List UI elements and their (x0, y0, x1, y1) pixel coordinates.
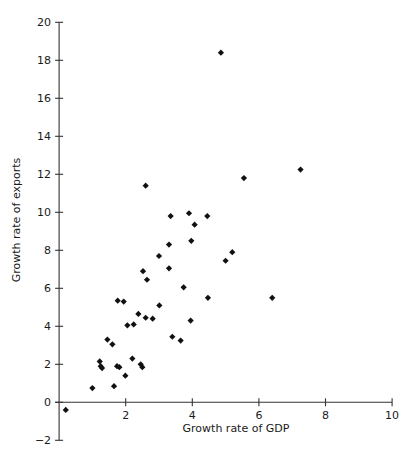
data-point (166, 265, 172, 271)
y-tick-label: 0 (44, 396, 51, 409)
data-point (109, 341, 115, 347)
data-point (192, 222, 198, 228)
y-tick-label: 14 (37, 130, 51, 143)
x-tick-label: 6 (255, 409, 262, 422)
data-point (178, 337, 184, 343)
data-point (150, 316, 156, 322)
data-point (97, 358, 103, 364)
data-point (143, 183, 149, 189)
data-point (205, 295, 211, 301)
data-point (218, 50, 224, 56)
scatter-plot-figure: −202468101214161820246810 Growth rate of… (0, 0, 413, 460)
x-tick-label: 10 (385, 409, 399, 422)
data-point (297, 166, 303, 172)
y-tick-label: 18 (37, 54, 51, 67)
data-point (156, 302, 162, 308)
data-point (122, 373, 128, 379)
data-point (269, 295, 275, 301)
y-tick-label: 16 (37, 92, 51, 105)
data-point (188, 318, 194, 324)
data-point (129, 356, 135, 362)
data-point (181, 284, 187, 290)
data-point (229, 249, 235, 255)
tick-labels-group: −202468101214161820246810 (35, 16, 399, 447)
data-point (169, 334, 175, 340)
data-point (104, 337, 110, 343)
data-point (144, 277, 150, 283)
data-point (140, 268, 146, 274)
data-point (89, 385, 95, 391)
data-point (121, 299, 127, 305)
x-tick-label: 8 (322, 409, 329, 422)
data-point (204, 213, 210, 219)
x-tick-label: 2 (122, 409, 129, 422)
x-tick-label: 4 (189, 409, 196, 422)
data-point (156, 253, 162, 259)
plot-canvas: −202468101214161820246810 Growth rate of… (0, 0, 413, 460)
data-points-group (63, 50, 304, 413)
y-tick-label: 4 (44, 320, 51, 333)
y-tick-label: −2 (35, 434, 51, 447)
y-tick-label: 6 (44, 282, 51, 295)
y-tick-label: 12 (37, 168, 51, 181)
y-tick-label: 2 (44, 358, 51, 371)
axes-group (55, 22, 392, 440)
y-axis-title: Growth rate of exports (10, 157, 23, 282)
data-point (115, 298, 121, 304)
data-point (124, 322, 130, 328)
data-point (223, 258, 229, 264)
data-point (188, 238, 194, 244)
tick-marks-group (55, 22, 392, 440)
y-tick-label: 20 (37, 16, 51, 29)
y-tick-label: 10 (37, 206, 51, 219)
data-point (166, 242, 172, 248)
data-point (135, 311, 141, 317)
data-point (241, 175, 247, 181)
data-point (143, 315, 149, 321)
y-tick-label: 8 (44, 244, 51, 257)
data-point (111, 383, 117, 389)
data-point (63, 407, 69, 413)
data-point (186, 210, 192, 216)
x-axis-title: Growth rate of GDP (183, 422, 290, 435)
data-point (131, 321, 137, 327)
data-point (168, 213, 174, 219)
